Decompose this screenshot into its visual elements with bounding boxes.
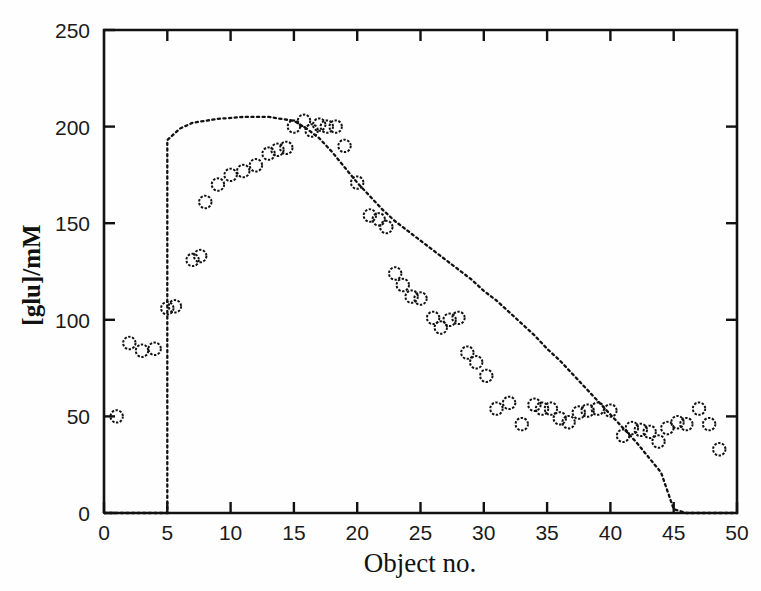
plot-background <box>0 0 761 591</box>
y-tick-label: 100 <box>55 309 90 332</box>
y-tick-label: 150 <box>55 212 90 235</box>
x-tick-label: 5 <box>161 521 173 544</box>
y-axis-title: [glu]/mM <box>18 224 45 325</box>
chart-figure: 05101520253035404550 050100150200250 Obj… <box>0 0 761 591</box>
scatter-plot-svg: 05101520253035404550 050100150200250 Obj… <box>0 0 761 591</box>
x-tick-label: 15 <box>282 521 305 544</box>
x-axis-title: Object no. <box>364 548 476 578</box>
y-tick-label: 200 <box>55 116 90 139</box>
x-tick-label: 50 <box>725 521 748 544</box>
x-tick-label: 0 <box>98 521 110 544</box>
y-tick-label: 250 <box>55 19 90 42</box>
x-tick-label: 25 <box>409 521 432 544</box>
x-tick-label: 45 <box>662 521 685 544</box>
x-tick-label: 20 <box>346 521 369 544</box>
x-tick-label: 10 <box>219 521 242 544</box>
x-tick-label: 30 <box>472 521 495 544</box>
y-tick-label: 50 <box>67 405 90 428</box>
x-tick-label: 35 <box>535 521 558 544</box>
x-tick-label: 40 <box>599 521 622 544</box>
y-tick-label: 0 <box>78 502 90 525</box>
